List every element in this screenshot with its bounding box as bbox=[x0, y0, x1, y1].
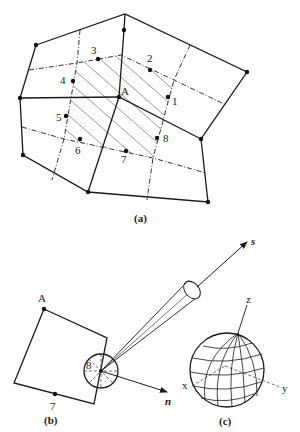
mesh-edge-vertical bbox=[88, 14, 125, 192]
axis-n-arrow bbox=[101, 371, 167, 392]
cone-inner-line bbox=[101, 292, 190, 371]
panel-b-element: A 7 8 s n (b) bbox=[14, 235, 255, 427]
axis-s-arrow bbox=[197, 242, 247, 287]
cone-cap bbox=[180, 278, 204, 302]
outer-boundary bbox=[20, 14, 247, 202]
axis-x-label: x bbox=[182, 379, 188, 391]
point-label-2: 2 bbox=[147, 52, 153, 64]
corner-label-a: A bbox=[38, 292, 46, 304]
sphere-outline bbox=[190, 333, 264, 407]
figure-canvas: 1 2 3 4 5 6 7 8 A (a) A 7 8 s n bbox=[0, 0, 300, 432]
axis-z-line bbox=[238, 305, 247, 333]
node-7 bbox=[53, 392, 57, 396]
hatched-control-volume bbox=[0, 0, 270, 228]
point-label-1: 1 bbox=[172, 95, 178, 107]
cv-line-bottom bbox=[22, 127, 206, 173]
point-label-7b: 7 bbox=[50, 400, 56, 412]
point-label-4: 4 bbox=[60, 74, 66, 86]
node-label-a: A bbox=[121, 85, 129, 97]
point-label-8: 8 bbox=[163, 132, 169, 144]
axis-z-label: z bbox=[246, 293, 251, 305]
axis-n-label: n bbox=[165, 395, 171, 407]
point-label-5: 5 bbox=[56, 111, 62, 123]
node-a bbox=[42, 307, 46, 311]
axis-y-label: y bbox=[282, 382, 288, 394]
sphere-latitudes bbox=[190, 343, 264, 401]
axis-y-line bbox=[225, 366, 280, 387]
caption-b: (b) bbox=[44, 414, 58, 427]
point-label-6: 6 bbox=[75, 144, 81, 156]
point-label-8b: 8 bbox=[86, 359, 92, 371]
caption-c: (c) bbox=[219, 415, 232, 428]
axis-s-label: s bbox=[250, 235, 255, 247]
panel-a-mesh: 1 2 3 4 5 6 7 8 A (a) bbox=[0, 0, 270, 228]
point-label-7: 7 bbox=[121, 153, 127, 165]
point-label-3: 3 bbox=[91, 44, 97, 56]
panel-c-sphere: z x y (c) bbox=[182, 293, 288, 428]
caption-a: (a) bbox=[134, 212, 147, 225]
